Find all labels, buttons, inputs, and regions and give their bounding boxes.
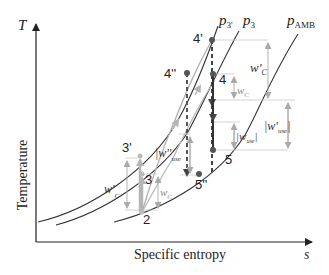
point-4 <box>210 71 216 77</box>
label-pamb: pAMB <box>286 12 315 30</box>
isobar-labels: p3' p3 pAMB <box>218 12 315 30</box>
ts-diagram: T Temperature Specific entropy s <box>0 0 329 275</box>
y-axis-label: Temperature <box>15 140 30 211</box>
point-3prime <box>138 154 143 159</box>
label-wuse-prime: |w'use| <box>264 119 291 135</box>
label-wc-low: wC <box>160 186 172 201</box>
x-axis-symbol: s <box>304 247 310 262</box>
label-4: 4 <box>219 72 226 87</box>
label-4prime: 4' <box>193 31 203 46</box>
isobar-p3prime <box>38 26 218 222</box>
label-3prime: 3' <box>122 140 132 155</box>
point-3 <box>140 172 145 177</box>
label-5dprime: 5'' <box>195 177 207 192</box>
y-axis-symbol: T <box>18 17 28 33</box>
label-2: 2 <box>143 212 150 227</box>
label-p3: p3 <box>242 12 256 30</box>
label-wc-prime-high: w'C <box>250 60 267 77</box>
point-4prime <box>209 37 215 43</box>
point-labels: 4' 4'' 4 5 5'' 3' 3 2 <box>122 31 232 227</box>
label-5: 5 <box>225 152 232 167</box>
point-4dprime <box>184 70 190 76</box>
x-axis-label: Specific entropy <box>134 247 226 262</box>
label-wc-high: wC <box>237 84 249 99</box>
axes: T Temperature Specific entropy s <box>15 17 312 262</box>
curve-arrow-upper <box>195 86 200 95</box>
label-4dprime: 4'' <box>164 66 176 81</box>
label-3: 3 <box>145 172 152 187</box>
label-p3prime: p3' <box>218 12 233 30</box>
point-5 <box>210 147 216 153</box>
